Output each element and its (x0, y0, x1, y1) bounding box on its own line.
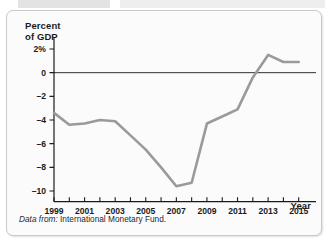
source-text: International Monetary Fund. (60, 214, 166, 224)
y-tick-label: 0 (41, 68, 46, 78)
y-tick-label: 2% (34, 44, 47, 54)
chart-figure: 2%0–2–4–6–8–1019992001200320052007200920… (0, 0, 329, 243)
y-tick-label: –2 (36, 91, 46, 101)
x-tick-label: 2011 (228, 206, 247, 216)
source-note: Data from: International Monetary Fund. (19, 214, 166, 224)
x-tick-label: 2007 (167, 206, 186, 216)
x-tick-label: 2009 (197, 206, 216, 216)
plot-area: 2%0–2–4–6–8–1019992001200320052007200920… (7, 11, 322, 236)
y-tick-label: –6 (36, 139, 46, 149)
y-axis-title: Percent of GDP (25, 20, 61, 42)
y-tick-label: –8 (36, 162, 46, 172)
y-axis-title-line1: Percent (25, 20, 61, 31)
top-banner-strip-left (18, 0, 110, 8)
y-tick-label: –4 (36, 115, 46, 125)
data-line-series-0 (54, 55, 299, 186)
source-divider (15, 209, 315, 210)
line-chart-svg: 2%0–2–4–6–8–1019992001200320052007200920… (7, 11, 322, 236)
source-prefix: Data from: (19, 214, 58, 224)
x-tick-label: 2013 (259, 206, 278, 216)
y-axis-title-line2: of GDP (25, 31, 61, 42)
top-banner-strip-right (120, 0, 325, 8)
y-tick-label: –10 (32, 186, 47, 196)
chart-panel: 2%0–2–4–6–8–1019992001200320052007200920… (6, 10, 322, 236)
